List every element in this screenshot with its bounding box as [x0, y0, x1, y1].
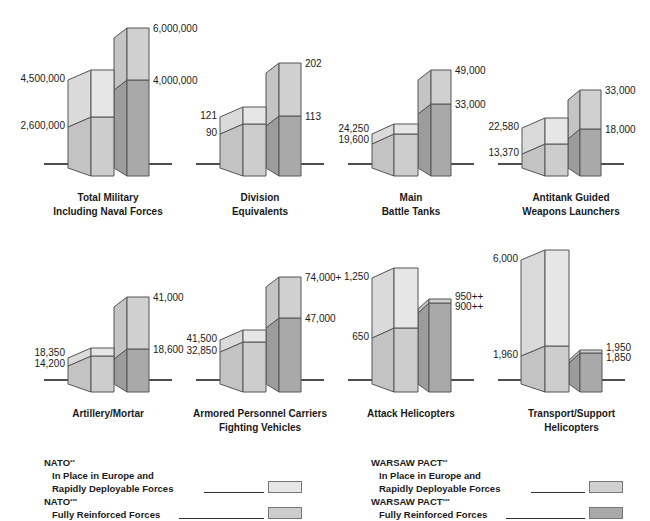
legend-leader-line [204, 492, 264, 493]
bar-warsaw-front-upper [580, 90, 601, 129]
chart-panel: 41,50032,85074,000+47,000Armored Personn… [186, 272, 341, 433]
chart-panel: 1,250650950++900++Attack Helicopters [344, 268, 484, 419]
panel-title: Main [400, 192, 423, 203]
panel-title: Armored Personnel Carriers [193, 408, 327, 419]
label-warsaw-full: 202 [305, 58, 322, 69]
bar-nato-front-upper [545, 250, 569, 346]
bar-nato-front-upper [243, 330, 266, 342]
bar-warsaw-side-lower [114, 80, 127, 176]
bar-nato-front-upper [394, 124, 418, 134]
bar-warsaw-front-upper [429, 299, 451, 303]
bar-warsaw-front-lower [580, 129, 601, 176]
bar-nato-front-lower [545, 346, 569, 392]
panel-title: Total Military [78, 192, 139, 203]
bar-nato-front-upper [91, 348, 114, 356]
label-nato-in-place: 90 [206, 127, 218, 138]
bar-warsaw-front-upper [279, 277, 301, 318]
bar-warsaw-front-lower [580, 353, 602, 392]
legend-leader-line [179, 518, 264, 519]
label-warsaw-in-place: 47,000 [305, 313, 336, 324]
bar-warsaw-front-upper [580, 350, 602, 353]
label-nato-full: 22,580 [488, 121, 519, 132]
label-nato-in-place: 32,850 [186, 345, 217, 356]
label-nato-full: 4,500,000 [21, 73, 66, 84]
bar-warsaw-front-lower [127, 349, 149, 392]
label-nato-in-place: 2,600,000 [21, 120, 66, 131]
bar-nato-front-upper [243, 107, 266, 124]
bar-nato-front-lower [91, 117, 114, 176]
chart-panel: 24,25019,60049,00033,000MainBattle Tanks [338, 65, 486, 217]
bar-warsaw-side-upper [114, 297, 127, 359]
panel-title: Attack Helicopters [367, 408, 455, 419]
label-nato-in-place: 13,370 [488, 147, 519, 158]
chart-panel: 18,35014,20041,00018,600Artillery/Mortar [34, 292, 184, 419]
panel-title: Transport/Support [528, 408, 616, 419]
label-nato-full: 6,000 [493, 253, 518, 264]
bar-nato-front-lower [394, 328, 418, 392]
label-warsaw-in-place: 33,000 [455, 99, 486, 110]
bar-nato-front-lower [545, 144, 568, 176]
legend-leader-line [506, 518, 585, 519]
label-warsaw-full: 6,000,000 [153, 23, 198, 34]
chart-panel: 12190202113DivisionEquivalents [196, 58, 324, 217]
swatch-nato-full [268, 507, 302, 519]
bar-warsaw-side-upper [114, 28, 127, 90]
bar-warsaw-front-lower [279, 116, 301, 176]
panel-title: Helicopters [544, 422, 599, 433]
label-nato-full: 24,250 [338, 123, 369, 134]
bar-nato-front-upper [91, 70, 114, 117]
panel-title: Including Naval Forces [53, 206, 163, 217]
bar-warsaw-front-lower [431, 104, 451, 176]
label-warsaw-in-place: 18,600 [153, 344, 184, 355]
legend-nato-header-full: NATO*** [44, 496, 77, 507]
bar-warsaw-front-lower [279, 318, 301, 392]
bar-warsaw-front-upper [127, 28, 149, 80]
bar-nato-side-upper [68, 70, 91, 127]
bar-warsaw-front-lower [429, 303, 451, 392]
label-nato-in-place: 14,200 [34, 358, 65, 369]
bar-nato-side-upper [521, 250, 545, 356]
panel-title: Artillery/Mortar [72, 408, 144, 419]
label-warsaw-full: 41,000 [153, 292, 184, 303]
bar-warsaw-side-lower [418, 303, 429, 392]
bar-nato-side-upper [372, 268, 394, 338]
bar-warsaw-front-upper [127, 297, 149, 349]
label-warsaw-in-place: 18,000 [605, 124, 636, 135]
panel-title: Battle Tanks [382, 206, 441, 217]
label-nato-full: 41,500 [186, 333, 217, 344]
swatch-nato-in-place [268, 481, 302, 493]
swatch-warsaw-in-place [589, 481, 623, 493]
label-warsaw-in-place: 1,850 [606, 352, 631, 363]
panel-title: Division [241, 192, 280, 203]
label-warsaw-in-place: 113 [305, 111, 321, 122]
panel-title: Fighting Vehicles [219, 422, 302, 433]
bar-warsaw-side-lower [266, 318, 279, 392]
bar-nato-front-upper [545, 118, 568, 144]
bar-warsaw-side-lower [418, 104, 431, 176]
bar-warsaw-side-upper [266, 63, 279, 126]
bar-warsaw-front-upper [279, 63, 301, 116]
panel-title: Equivalents [232, 206, 289, 217]
bar-warsaw-front-lower [127, 80, 149, 176]
label-nato-full: 1,250 [344, 271, 369, 282]
legend-leader-line [531, 492, 585, 493]
legend-nato-header: NATO** [44, 457, 75, 468]
label-warsaw-full: 33,000 [605, 85, 636, 96]
label-nato-full: 121 [200, 110, 217, 121]
legend-warsaw-header: WARSAW PACT** [371, 457, 447, 468]
legend-warsaw-header-full: WARSAW PACT*** [371, 496, 450, 507]
chart-panel: 4,500,0002,600,0006,000,0004,000,000Tota… [21, 23, 198, 217]
bar-nato-front-lower [243, 124, 266, 176]
bar-nato-front-lower [394, 134, 418, 176]
bar-nato-front-upper [394, 268, 418, 328]
label-warsaw-in-place: 900++ [455, 301, 484, 312]
label-warsaw-full: 49,000 [455, 65, 486, 76]
swatch-warsaw-full [589, 507, 623, 519]
label-nato-in-place: 19,600 [338, 134, 369, 145]
legend-nato: NATO** In Place in Europe and Rapidly De… [44, 456, 314, 521]
bar-nato-front-lower [91, 356, 114, 392]
bar-nato-front-lower [243, 342, 266, 392]
legend-warsaw: WARSAW PACT** In Place in Europe and Rap… [371, 456, 641, 521]
panel-title: Weapons Launchers [522, 206, 620, 217]
chart-panel: 22,58013,37033,00018,000Antitank GuidedW… [488, 85, 636, 217]
